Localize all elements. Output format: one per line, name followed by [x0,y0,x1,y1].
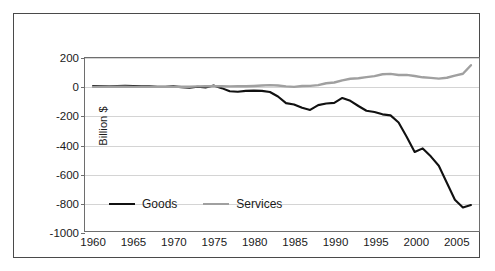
plot-area: 2000-200-400-600-800-1000 19601965197019… [84,57,480,232]
legend-swatch-line-icon [203,203,229,205]
chart-outer-frame: 2000-200-400-600-800-1000 19601965197019… [13,13,480,258]
y-axis-tick-mark [81,233,85,234]
y-axis-tick-label: -600 [56,169,79,181]
series-line-services [93,65,471,87]
x-axis-tick-label: 1965 [121,236,147,248]
y-axis-tick-label: 200 [60,52,79,64]
x-axis-tick-label: 1960 [80,236,106,248]
x-axis-tick-label: 2005 [444,236,470,248]
x-axis-tick-label: 2000 [404,236,430,248]
chart-figure: 2000-200-400-600-800-1000 19601965197019… [0,0,495,271]
y-axis-tick-label: -800 [56,198,79,210]
x-axis-tick-label: 1990 [323,236,349,248]
legend-label: Services [236,197,282,211]
y-axis-tick-label: -200 [56,110,79,122]
x-axis-tick-label: 1980 [242,236,268,248]
y-axis-tick-label: 0 [73,81,79,93]
legend-item-goods: Goods [109,197,177,211]
y-axis-tick-label: -400 [56,140,79,152]
legend-item-services: Services [203,197,282,211]
chart-legend: GoodsServices [109,197,282,211]
x-axis-tick-label: 1970 [161,236,187,248]
x-axis-tick-label: 1985 [282,236,308,248]
y-axis-tick-label: -1000 [50,227,79,239]
y-axis-title: Billion $ [97,66,109,186]
legend-label: Goods [142,197,177,211]
x-axis-tick-label: 1995 [363,236,389,248]
x-axis-tick-label: 1975 [202,236,228,248]
legend-swatch-line-icon [109,203,135,205]
series-line-goods [93,86,471,208]
